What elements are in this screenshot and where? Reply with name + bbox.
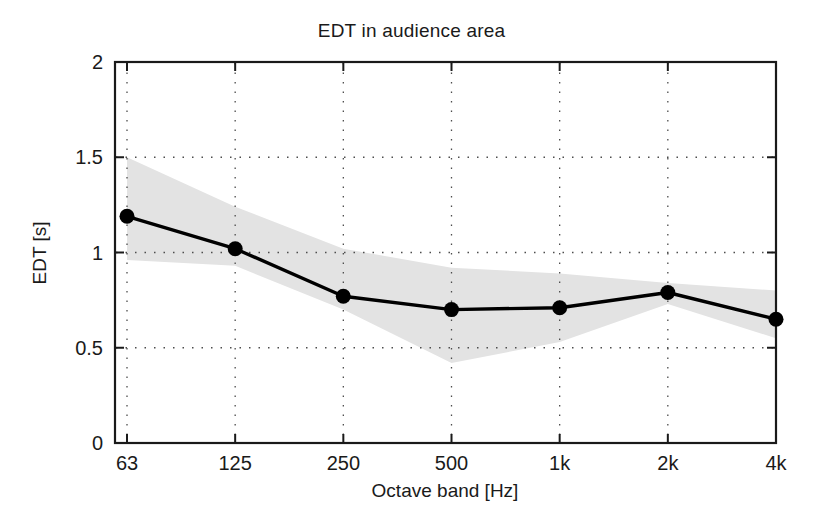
x-tick-label-125: 125 — [218, 452, 251, 474]
y-axis-title: EDT [s] — [29, 222, 50, 285]
data-point-250 — [336, 289, 351, 304]
y-tick-label-0: 0 — [92, 432, 103, 454]
x-axis-title: Octave band [Hz] — [372, 480, 519, 501]
y-tick-label-1.5: 1.5 — [75, 146, 103, 168]
x-tick-label-63: 63 — [116, 452, 138, 474]
y-tick-labels: 00.511.52 — [75, 51, 103, 454]
data-point-4k — [769, 312, 784, 327]
x-tick-label-500: 500 — [435, 452, 468, 474]
data-point-63 — [120, 209, 135, 224]
spread-band-area — [127, 157, 776, 363]
data-point-1k — [552, 300, 567, 315]
x-tick-label-4k: 4k — [765, 452, 787, 474]
x-tick-label-250: 250 — [327, 452, 360, 474]
x-tick-label-2k: 2k — [657, 452, 679, 474]
chart-page: EDT in audience area 631252505001k2k4k 0… — [0, 0, 823, 524]
plot-area: 631252505001k2k4k 00.511.52 — [75, 51, 787, 474]
data-point-2k — [660, 285, 675, 300]
edt-octave-band-chart: 631252505001k2k4k 00.511.52 Octave band … — [0, 0, 823, 524]
y-tick-label-2: 2 — [92, 51, 103, 73]
data-point-125 — [228, 241, 243, 256]
y-tick-label-0.5: 0.5 — [75, 337, 103, 359]
x-tick-labels: 631252505001k2k4k — [116, 452, 788, 474]
x-tick-label-1k: 1k — [549, 452, 571, 474]
data-point-500 — [444, 302, 459, 317]
y-tick-label-1: 1 — [92, 242, 103, 264]
